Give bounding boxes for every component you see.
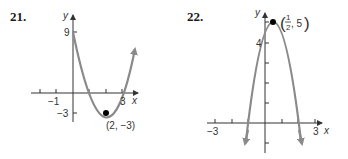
y-ticks bbox=[265, 22, 269, 143]
x-ticks bbox=[40, 89, 122, 93]
vertex-point bbox=[270, 19, 276, 25]
graphs: y 9 −3 −1 3 x (2, −3) y bbox=[0, 0, 348, 159]
right-arrow bbox=[299, 130, 302, 144]
x-tick-label-3: 3 bbox=[120, 96, 126, 107]
vertex-point bbox=[103, 110, 109, 116]
x-tick-label-3: 3 bbox=[313, 126, 319, 137]
y-axis-label: y bbox=[254, 7, 261, 18]
y-axis-label: y bbox=[62, 10, 69, 21]
svg-text:, 5: , 5 bbox=[291, 18, 303, 29]
vertex-label: ( 1 2 , 5 ) bbox=[280, 13, 310, 33]
x-axis-label: x bbox=[323, 125, 330, 136]
y-tick-label-9: 9 bbox=[64, 27, 70, 38]
parabola-curve bbox=[73, 32, 135, 117]
x-tick-label-neg1: −1 bbox=[48, 96, 60, 107]
y-tick-label-neg3: −3 bbox=[57, 108, 69, 119]
x-tick-label-neg3: −3 bbox=[207, 126, 219, 137]
left-arrow bbox=[245, 130, 248, 144]
y-tick-label-4: 4 bbox=[256, 38, 262, 49]
x-axis-label: x bbox=[131, 95, 138, 106]
vertex-label: (2, −3) bbox=[106, 120, 135, 131]
graph-22: y 4 −3 3 x ( 1 2 , 5 ) bbox=[207, 7, 330, 153]
svg-text:): ) bbox=[304, 14, 310, 33]
graph-21: y 9 −3 −1 3 x (2, −3) bbox=[31, 10, 138, 131]
